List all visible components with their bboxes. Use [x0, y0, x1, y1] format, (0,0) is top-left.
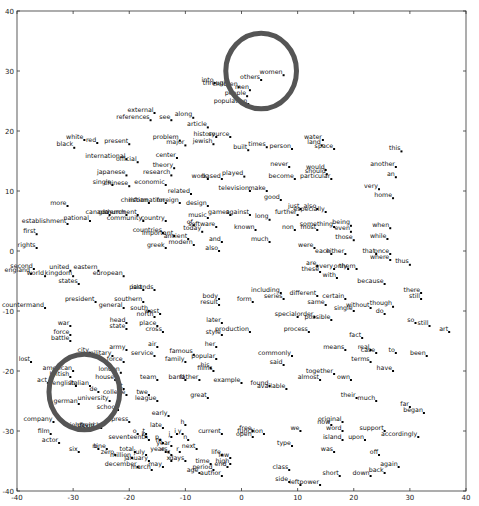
point-marker [342, 421, 344, 423]
point-marker [330, 178, 332, 180]
point-marker [229, 136, 231, 138]
word-label: n [183, 433, 187, 440]
point-marker [97, 391, 99, 393]
point-marker [375, 352, 377, 354]
point-marker [165, 247, 167, 249]
point-marker [353, 239, 355, 241]
point-marker [78, 283, 80, 285]
word-label: current [198, 427, 221, 434]
word-label: world [27, 269, 44, 276]
point-marker [145, 436, 147, 438]
point-marker [198, 379, 200, 381]
y-tick-label: -30 [3, 428, 14, 436]
word-label: against [226, 208, 250, 216]
point-marker [67, 205, 69, 207]
word-label: was [321, 445, 333, 452]
word-label: film [38, 427, 50, 434]
point-marker [192, 117, 194, 119]
point-marker [294, 178, 296, 180]
point-marker [221, 241, 223, 243]
word-label: establishment [22, 217, 67, 224]
point-marker [78, 451, 80, 453]
word-label: h [180, 418, 184, 425]
point-marker [266, 146, 268, 148]
point-marker [249, 214, 251, 216]
word-label: battle [51, 334, 70, 341]
point-marker [285, 388, 287, 390]
word-label: times [248, 140, 266, 147]
word-label: problem [153, 133, 179, 141]
point-marker [184, 144, 186, 146]
word-label: west [144, 307, 159, 314]
point-marker [125, 349, 127, 351]
point-marker [44, 307, 46, 309]
word-label: this [389, 144, 401, 151]
point-marker [123, 275, 125, 277]
word-label: x [167, 454, 171, 461]
point-marker [330, 319, 332, 321]
word-label: certain [322, 292, 344, 299]
point-marker [392, 306, 394, 308]
word-label: began [403, 406, 423, 414]
word-label: e [161, 445, 165, 452]
point-marker [125, 322, 127, 324]
point-marker [58, 442, 60, 444]
point-marker [184, 361, 186, 363]
word-label: r [176, 445, 179, 452]
y-tick-label: -20 [3, 368, 14, 376]
word-label: league [135, 394, 156, 402]
point-marker [162, 331, 164, 333]
word-label: built [233, 143, 247, 150]
word-label: lost [19, 355, 31, 362]
point-marker [426, 355, 428, 357]
point-marker [150, 119, 152, 121]
word-label: team [140, 373, 156, 380]
word-label: while [370, 232, 387, 239]
word-label: music [188, 211, 207, 218]
point-marker [170, 460, 172, 462]
word-label: class [273, 463, 289, 470]
point-marker [221, 433, 223, 435]
word-label: see [159, 113, 170, 120]
point-marker [212, 143, 214, 145]
point-marker [128, 143, 130, 145]
point-marker [159, 313, 161, 315]
word-label: own [337, 373, 350, 380]
word-label: commonly [258, 349, 291, 357]
point-marker [125, 174, 127, 176]
word-label: same [308, 298, 325, 305]
point-marker [168, 415, 170, 417]
point-marker [145, 433, 147, 435]
word-label: become [269, 172, 294, 179]
word-label: been [410, 349, 426, 356]
point-marker [154, 289, 156, 291]
point-marker [283, 298, 285, 300]
word-label: television [219, 184, 249, 191]
tsne-scatter-chart: womenothersintothroughchildrenmenpeoplep… [0, 0, 479, 506]
word-label: never [270, 160, 288, 167]
word-label: played [222, 169, 243, 177]
point-marker [288, 469, 290, 471]
word-label: an [387, 170, 395, 177]
x-tick-label: -20 [124, 494, 135, 502]
word-label: famous [169, 347, 192, 354]
point-marker [417, 436, 419, 438]
point-marker [148, 394, 150, 396]
point-marker [165, 220, 167, 222]
point-marker [148, 202, 150, 204]
word-label: great [190, 391, 207, 399]
word-label: type [277, 439, 291, 447]
word-label: i [174, 427, 176, 434]
word-label: those [335, 233, 353, 240]
point-marker [333, 451, 335, 453]
point-marker [370, 307, 372, 309]
point-marker [128, 185, 130, 187]
point-marker [283, 74, 285, 76]
point-marker [384, 313, 386, 315]
word-label: company [23, 415, 52, 423]
word-label: based [202, 172, 221, 179]
point-marker [221, 334, 223, 336]
word-label: kingdom [45, 269, 72, 277]
word-label: actor [42, 436, 59, 443]
point-marker [215, 226, 217, 228]
